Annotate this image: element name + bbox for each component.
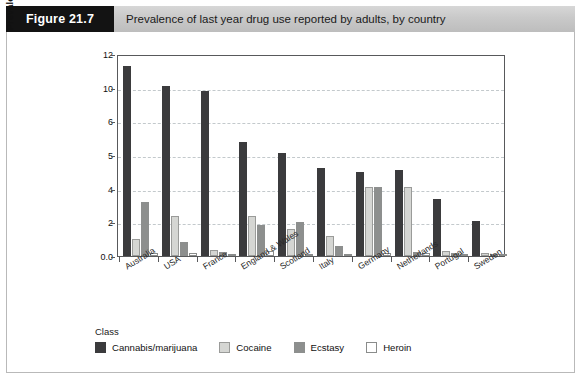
- x-axis-tick-mark: [235, 257, 236, 262]
- x-axis-tick-mark: [391, 257, 392, 262]
- x-axis-tick-mark: [313, 257, 314, 262]
- legend-item[interactable]: Cannabis/marijuana: [95, 342, 197, 353]
- y-axis-tick-mark: [111, 122, 115, 123]
- y-axis-tick-label: 0.0: [83, 252, 113, 262]
- bar: [317, 168, 325, 256]
- legend-swatch-icon: [219, 342, 230, 353]
- chart-panel: Prevalence of use in the past year (%) 1…: [6, 32, 575, 373]
- bar: [239, 142, 247, 256]
- bar: [162, 86, 170, 256]
- figure-number-box: Figure 21.7: [6, 6, 114, 32]
- legend-label: Cocaine: [236, 342, 271, 353]
- bar: [335, 246, 343, 256]
- bar: [189, 253, 197, 256]
- y-axis-tick-mark: [111, 257, 115, 258]
- legend-title: Class: [95, 326, 525, 337]
- x-axis-tick-mark: [158, 257, 159, 262]
- legend-items: Cannabis/marijuanaCocaineEcstasyHeroin: [95, 342, 525, 353]
- bar: [171, 216, 179, 256]
- chart-legend: Class Cannabis/marijuanaCocaineEcstasyHe…: [95, 326, 525, 353]
- bar: [248, 216, 256, 256]
- bar-group: [239, 142, 275, 256]
- figure-caption: Prevalence of last year drug use reporte…: [126, 6, 446, 32]
- y-axis-tick-mark: [111, 89, 115, 90]
- x-axis-labels: AustraliaUSAFranceEngland & WalesScotlan…: [117, 263, 517, 323]
- y-axis-tick-label: 6: [83, 117, 113, 127]
- plot-area: [117, 55, 505, 257]
- y-axis-tick-label: 12: [83, 50, 113, 60]
- bar: [326, 236, 334, 256]
- bar: [404, 187, 412, 256]
- y-axis-tick-label: 4: [83, 185, 113, 195]
- x-axis-tick-mark: [352, 257, 353, 262]
- figure-header-band: Figure 21.7 Prevalence of last year drug…: [6, 6, 575, 32]
- legend-item[interactable]: Ecstasy: [294, 342, 345, 353]
- y-axis-tick-label: 5: [83, 151, 113, 161]
- y-axis-tick-mark: [111, 55, 115, 56]
- bar: [201, 91, 209, 256]
- bar-group: [162, 86, 198, 256]
- bar-group: [201, 91, 237, 256]
- bar-group: [356, 172, 392, 256]
- bar: [344, 254, 352, 256]
- y-axis-tick-mark: [111, 190, 115, 191]
- bar: [374, 187, 382, 256]
- y-axis-tick-label: 2: [83, 218, 113, 228]
- figure-container: Figure 21.7 Prevalence of last year drug…: [6, 6, 575, 373]
- legend-swatch-icon: [366, 342, 377, 353]
- bar: [395, 170, 403, 256]
- legend-item[interactable]: Cocaine: [219, 342, 271, 353]
- bar: [365, 187, 373, 256]
- bar-group: [123, 66, 159, 256]
- x-axis-tick-mark: [468, 257, 469, 262]
- bar: [180, 242, 188, 256]
- legend-swatch-icon: [95, 342, 106, 353]
- bar: [356, 172, 364, 256]
- y-axis-tick-labels: 121065420.0: [79, 55, 113, 257]
- legend-label: Cannabis/marijuana: [112, 342, 197, 353]
- x-axis-tick-mark: [197, 257, 198, 262]
- x-axis-tick-mark: [429, 257, 430, 262]
- legend-item[interactable]: Heroin: [366, 342, 411, 353]
- bar: [123, 66, 131, 256]
- legend-label: Ecstasy: [311, 342, 345, 353]
- legend-label: Heroin: [383, 342, 411, 353]
- bar: [472, 221, 480, 256]
- y-axis-tick-mark: [111, 223, 115, 224]
- figure-number-label: Figure 21.7: [26, 12, 94, 26]
- y-axis-tick-mark: [111, 156, 115, 157]
- x-axis-tick-mark: [274, 257, 275, 262]
- legend-swatch-icon: [294, 342, 305, 353]
- y-axis-tick-label: 10: [83, 84, 113, 94]
- y-axis-title: Prevalence of use in the past year (%): [5, 0, 15, 50]
- x-axis-tick-mark: [119, 257, 120, 262]
- bar-group: [317, 168, 353, 256]
